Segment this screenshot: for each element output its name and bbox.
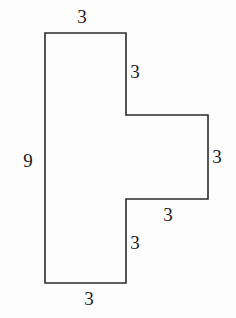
dimension-label-upper-right: 3 [130, 62, 140, 81]
polygon-shape [0, 0, 236, 318]
dimension-label-left: 9 [23, 151, 33, 170]
dimension-label-bottom: 3 [84, 289, 94, 308]
shape-outline-path [45, 33, 208, 283]
dimension-label-arm-bottom: 3 [163, 205, 173, 224]
figure-canvas: 3 3 3 3 3 3 9 [0, 0, 236, 318]
dimension-label-lower-right: 3 [130, 233, 140, 252]
dimension-label-top: 3 [77, 7, 87, 26]
dimension-label-far-right: 3 [212, 147, 222, 166]
